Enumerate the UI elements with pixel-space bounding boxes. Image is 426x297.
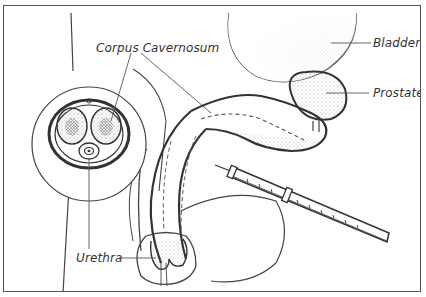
label-prostate: Prostate — [373, 86, 421, 100]
diagram-frame: Corpus Cavernosum Bladder Prostate Ureth… — [3, 5, 421, 292]
body-outline-line — [71, 13, 73, 71]
syringe — [215, 165, 389, 242]
prostate-shape — [290, 72, 347, 120]
label-urethra: Urethra — [76, 251, 122, 265]
glans — [137, 233, 196, 287]
bladder-shape — [228, 13, 356, 82]
label-bladder: Bladder — [373, 36, 420, 50]
label-corpus-cavernosum: Corpus Cavernosum — [96, 41, 219, 55]
